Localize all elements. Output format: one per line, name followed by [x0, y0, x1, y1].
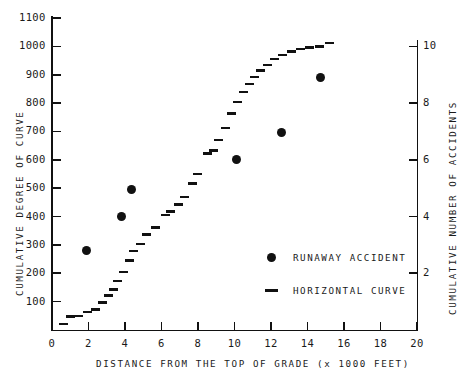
y-ticklabel-right: 4 — [423, 210, 430, 222]
y-axis-right-title: CUMULATIVE NUMBER OF ACCIDENTS — [447, 101, 458, 315]
y-ticklabel-left: 900 — [4, 68, 46, 80]
y-tick-left — [52, 272, 61, 274]
y-ticklabel-right: 10 — [423, 39, 436, 51]
y-tick-right — [409, 272, 418, 274]
x-axis-title: DISTANCE FROM THE TOP OF GRADE (x 1000 F… — [96, 358, 410, 369]
y-ticklabel-left: 800 — [4, 96, 46, 108]
y-tick-left — [52, 216, 61, 218]
curve-dash-marker — [214, 139, 223, 141]
curve-dash-marker — [305, 46, 314, 48]
x-tick — [416, 322, 418, 331]
x-ticklabel: 6 — [147, 337, 175, 349]
accident-point-marker — [316, 73, 325, 82]
x-tick — [380, 322, 382, 331]
x-tick — [161, 322, 163, 331]
x-tick — [343, 322, 345, 331]
x-ticklabel: 0 — [38, 337, 66, 349]
x-tick — [197, 322, 199, 331]
curve-dash-marker — [227, 112, 236, 114]
curve-dash-marker — [161, 214, 170, 216]
x-ticklabel: 18 — [366, 337, 394, 349]
y-ticklabel-left: 1100 — [4, 11, 46, 23]
y-tick-left — [52, 159, 61, 161]
curve-dash-marker — [125, 259, 134, 261]
x-ticklabel: 14 — [293, 337, 321, 349]
curve-dash-marker — [98, 301, 107, 303]
y-tick-left — [52, 46, 61, 48]
curve-dash-marker — [239, 91, 248, 93]
curve-dash-marker — [250, 76, 259, 78]
curve-dash-marker — [129, 250, 138, 252]
curve-dash-marker — [270, 58, 279, 60]
y-tick-left — [52, 17, 61, 19]
y-tick-right — [409, 216, 418, 218]
curve-dash-marker — [256, 69, 265, 71]
x-tick — [88, 322, 90, 331]
accident-point-marker — [127, 185, 136, 194]
y-tick-left — [52, 131, 61, 133]
curve-dash-marker — [221, 127, 230, 129]
curve-dash-marker — [59, 323, 68, 325]
curve-dash-marker — [109, 288, 118, 290]
accident-point-marker — [82, 246, 91, 255]
curve-dash-marker — [142, 233, 151, 235]
y-tick-left — [52, 244, 61, 246]
filled-circle-icon — [258, 253, 284, 262]
legend-item-horizontal-curve: HORIZONTAL CURVE — [258, 285, 406, 296]
y-ticklabel-right: 6 — [423, 153, 430, 165]
curve-dash-marker — [278, 54, 287, 56]
accident-point-marker — [277, 128, 286, 137]
curve-dash-marker — [91, 308, 100, 310]
curve-dash-marker — [113, 280, 122, 282]
y-tick-left — [52, 74, 61, 76]
y-ticklabel-left: 100 — [4, 295, 46, 307]
x-ticklabel: 16 — [330, 337, 358, 349]
legend-label: RUNAWAY ACCIDENT — [293, 252, 406, 263]
x-ticklabel: 2 — [74, 337, 102, 349]
y-axis-left-line — [51, 16, 53, 331]
y-tick-right — [409, 102, 418, 104]
legend-label: HORIZONTAL CURVE — [293, 285, 406, 296]
curve-dash-marker — [209, 149, 218, 151]
curve-dash-marker — [203, 152, 212, 154]
y-tick-left — [52, 102, 61, 104]
curve-dash-marker — [287, 50, 296, 52]
curve-dash-marker — [193, 173, 202, 175]
accident-point-marker — [232, 155, 241, 164]
curve-dash-marker — [233, 101, 242, 103]
x-ticklabel: 12 — [257, 337, 285, 349]
x-ticklabel: 10 — [220, 337, 248, 349]
curve-dash-marker — [188, 182, 197, 184]
curve-dash-marker — [296, 48, 305, 50]
x-ticklabel: 4 — [111, 337, 139, 349]
x-tick — [124, 322, 126, 331]
curve-dash-marker — [325, 42, 334, 44]
x-tick — [307, 322, 309, 331]
y-axis-right-line — [417, 40, 419, 331]
curve-dash-marker — [74, 315, 83, 317]
accident-point-marker — [117, 212, 126, 221]
curve-dash-marker — [119, 271, 128, 273]
curve-dash-marker — [166, 210, 175, 212]
y-axis-left-title: CUMULATIVE DEGREE OF CURVE — [14, 111, 25, 296]
y-tick-left — [52, 301, 61, 303]
curve-dash-marker — [263, 64, 272, 66]
curve-dash-marker — [136, 243, 145, 245]
curve-dash-marker — [245, 83, 254, 85]
x-tick — [270, 322, 272, 331]
y-tick-left — [52, 187, 61, 189]
curve-dash-marker — [151, 226, 160, 228]
x-ticklabel: 20 — [403, 337, 431, 349]
curve-dash-marker — [104, 294, 113, 296]
short-dash-icon — [258, 289, 284, 292]
x-ticklabel: 8 — [184, 337, 212, 349]
y-ticklabel-left: 1000 — [4, 39, 46, 51]
x-tick — [234, 322, 236, 331]
curve-dash-marker — [83, 311, 92, 313]
curve-dash-marker — [174, 203, 183, 205]
y-ticklabel-right: 2 — [423, 266, 430, 278]
y-ticklabel-right: 8 — [423, 96, 430, 108]
y-tick-right — [409, 46, 418, 48]
curve-dash-marker — [315, 45, 324, 47]
